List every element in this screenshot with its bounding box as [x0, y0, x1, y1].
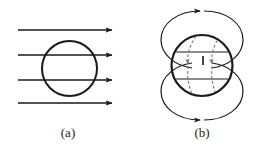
figure-container: (a) (b)	[0, 0, 264, 155]
panel-b-label: (b)	[172, 126, 232, 139]
panel-b-group	[161, 11, 243, 120]
lower-loop-path-left	[161, 63, 200, 120]
lower-loop-path	[204, 63, 243, 120]
panel-a-label: (a)	[38, 126, 98, 139]
left-dashed-current-tail	[188, 66, 192, 94]
panel-b-upper-loop	[161, 11, 243, 68]
panel-a-sphere	[42, 41, 97, 96]
upper-loop-path	[204, 11, 243, 68]
left-dashed-current-arrow	[188, 36, 196, 64]
right-dashed-current-tail	[212, 66, 216, 94]
panel-b-lower-loop	[161, 63, 243, 120]
upper-loop-path-left	[161, 11, 200, 68]
panel-a-group	[18, 30, 112, 103]
